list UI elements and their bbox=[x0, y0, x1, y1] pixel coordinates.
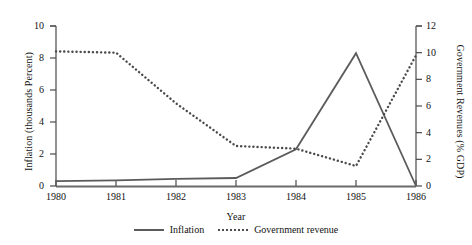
x-tick-label-1980: 1980 bbox=[32, 191, 80, 202]
x-tick-label-1982: 1982 bbox=[152, 191, 200, 202]
solid-line-swatch-icon bbox=[134, 229, 164, 231]
y-axis-label-right: Government Revenues (% GDP) bbox=[455, 24, 466, 200]
x-tick-label-1985: 1985 bbox=[332, 191, 380, 202]
x-tick-label-1986: 1986 bbox=[392, 191, 440, 202]
chart-plot-area bbox=[0, 0, 472, 245]
right-tick-label-10: 10 bbox=[426, 47, 450, 58]
series-line-inflation bbox=[56, 53, 416, 186]
right-tick-label-2: 2 bbox=[426, 153, 450, 164]
dotted-line-swatch-icon bbox=[218, 229, 248, 231]
legend-item-government-revenue: Government revenue bbox=[218, 224, 338, 235]
chart-container: 10 8 6 4 2 0 12 10 8 6 4 2 0 1980 1981 1… bbox=[0, 0, 472, 245]
legend-label-inflation: Inflation bbox=[170, 224, 204, 235]
left-axis-ticks bbox=[50, 26, 56, 186]
right-tick-label-8: 8 bbox=[426, 73, 450, 84]
chart-legend: Inflation Government revenue bbox=[0, 224, 472, 235]
left-axis-line bbox=[50, 26, 56, 186]
x-tick-label-1983: 1983 bbox=[212, 191, 260, 202]
y-axis-label-left: Inflation (thousands Percent) bbox=[23, 32, 34, 192]
right-axis-ticks bbox=[416, 26, 422, 186]
legend-label-government-revenue: Government revenue bbox=[254, 224, 338, 235]
x-tick-label-1984: 1984 bbox=[272, 191, 320, 202]
x-axis-label: Year bbox=[0, 211, 472, 222]
x-tick-label-1981: 1981 bbox=[92, 191, 140, 202]
right-tick-label-6: 6 bbox=[426, 100, 450, 111]
left-tick-label-10: 10 bbox=[20, 20, 44, 31]
right-tick-label-12: 12 bbox=[426, 20, 450, 31]
right-tick-label-4: 4 bbox=[426, 127, 450, 138]
right-tick-label-0: 0 bbox=[426, 180, 450, 191]
legend-item-inflation: Inflation bbox=[134, 224, 204, 235]
